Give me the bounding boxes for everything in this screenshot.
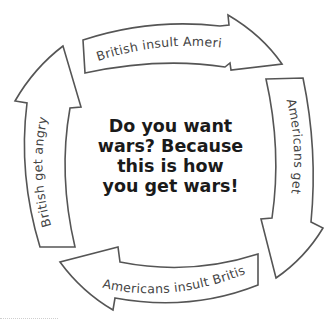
- center-caption-line-2: wars? Because: [88, 136, 253, 156]
- watermark: [0, 318, 58, 320]
- arrow-left: British get angry: [15, 46, 81, 247]
- center-caption-line-4: you get wars!: [88, 176, 253, 196]
- center-caption-line-3: this is how: [88, 156, 253, 176]
- arrow-top: British insult Americans: [0, 0, 282, 73]
- center-caption: Do you want wars? Because this is how yo…: [88, 116, 253, 196]
- center-caption-line-1: Do you want: [88, 116, 253, 136]
